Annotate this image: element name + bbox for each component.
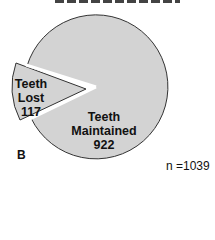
maintained-label: Teeth Maintained 922 — [66, 110, 142, 152]
panel-label: B — [17, 148, 26, 162]
sample-size-label: n =1039 — [166, 159, 210, 173]
lost-label: Teeth Lost 117 — [10, 77, 52, 119]
